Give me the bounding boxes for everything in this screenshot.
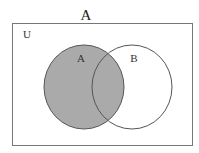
venn-diagram: A U A B bbox=[0, 0, 199, 153]
diagram-title: A bbox=[81, 7, 92, 23]
universe-label: U bbox=[23, 28, 31, 40]
set-a-label: A bbox=[77, 52, 85, 64]
set-b-label: B bbox=[130, 52, 137, 64]
